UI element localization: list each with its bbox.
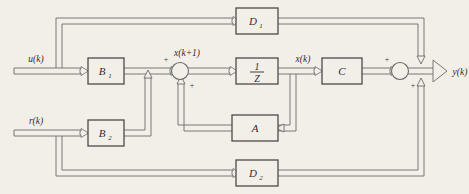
block-D1-label: D <box>248 15 257 27</box>
block-C-label: C <box>338 65 346 77</box>
block-D2-label: D <box>248 167 257 179</box>
block-D2-box[interactable] <box>236 160 278 186</box>
block-B1[interactable]: B 1 <box>88 58 124 84</box>
signal-label-x-state: x(k) <box>295 54 311 65</box>
output-summer-plus-bottom: + <box>411 81 416 90</box>
diagram-background <box>0 0 469 194</box>
block-A[interactable]: A <box>232 115 278 141</box>
block-diagram-svg: D 1 B 1 B 2 1 Z A C <box>0 0 469 194</box>
block-B2-subscript: 2 <box>108 134 112 142</box>
input-label-r: r(k) <box>29 116 43 127</box>
signal-label-x-next: x(k+1) <box>173 48 200 59</box>
state-summer-plus-top: + <box>164 55 169 64</box>
block-delay-denominator: Z <box>254 73 260 84</box>
block-delay[interactable]: 1 Z <box>236 58 278 84</box>
block-delay-numerator: 1 <box>255 61 260 72</box>
block-B2[interactable]: B 2 <box>88 120 124 146</box>
block-B1-label: B <box>99 65 106 77</box>
block-A-label: A <box>251 122 259 134</box>
input-label-u: u(k) <box>28 54 43 65</box>
block-D2[interactable]: D 2 <box>236 160 278 186</box>
block-B1-subscript: 1 <box>108 72 112 80</box>
output-label-y: y(k) <box>452 67 468 78</box>
block-D2-subscript: 2 <box>259 174 263 182</box>
block-D1[interactable]: D 1 <box>236 8 278 34</box>
block-B2-box[interactable] <box>88 120 124 146</box>
output-summer-circle[interactable] <box>392 63 409 80</box>
block-C[interactable]: C <box>322 58 362 84</box>
output-summer-plus-top: + <box>385 55 390 64</box>
block-D1-box[interactable] <box>236 8 278 34</box>
block-D1-subscript: 1 <box>259 22 263 30</box>
state-summer-circle[interactable] <box>172 63 189 80</box>
block-B2-label: B <box>99 127 106 139</box>
state-summer-plus-bottom: + <box>190 81 195 90</box>
block-diagram-canvas: D 1 B 1 B 2 1 Z A C <box>0 0 469 194</box>
block-B1-box[interactable] <box>88 58 124 84</box>
